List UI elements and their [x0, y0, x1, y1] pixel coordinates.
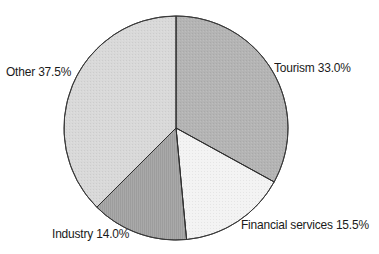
label-other: Other 37.5% — [6, 64, 71, 79]
label-tourism: Tourism 33.0% — [274, 60, 351, 75]
label-industry: Industry 14.0% — [52, 226, 129, 241]
label-financial-services: Financial services 15.5% — [241, 217, 369, 232]
pie-chart — [0, 0, 379, 254]
